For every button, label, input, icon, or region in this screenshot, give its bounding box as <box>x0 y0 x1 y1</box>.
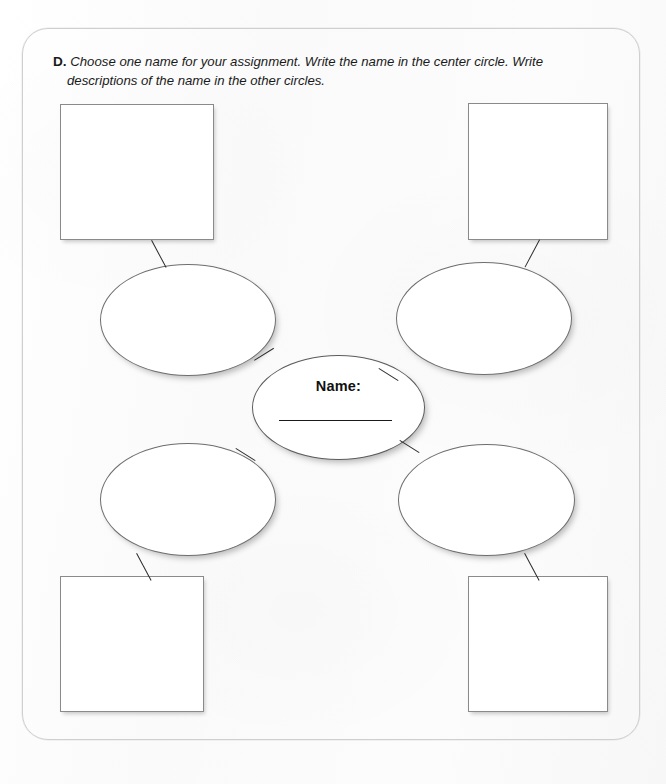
connector-box-tl-to-circle-ul <box>151 240 166 268</box>
description-circle-upper-right[interactable] <box>396 262 572 375</box>
description-circle-lower-left[interactable] <box>100 443 276 556</box>
connector-circle-lr-to-center <box>399 440 419 453</box>
description-circle-upper-left[interactable] <box>100 264 276 376</box>
connector-box-tr-to-circle-ur <box>525 240 540 268</box>
name-answer-line[interactable] <box>279 420 392 421</box>
graphic-organizer: Name: <box>0 0 666 784</box>
detail-box-top-right[interactable] <box>468 103 608 240</box>
description-circle-lower-right[interactable] <box>398 444 575 556</box>
center-circle-name[interactable]: Name: <box>252 355 425 460</box>
detail-box-top-left[interactable] <box>60 104 214 240</box>
detail-box-bottom-left[interactable] <box>60 576 204 712</box>
detail-box-bottom-right[interactable] <box>468 576 608 712</box>
